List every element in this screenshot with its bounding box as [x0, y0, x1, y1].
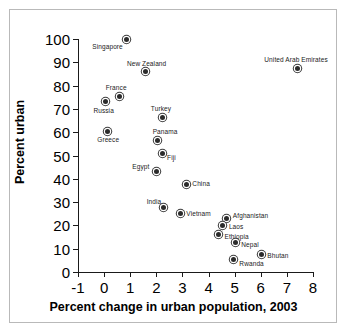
- y-axis-tick: [73, 156, 78, 157]
- data-point[interactable]: [103, 99, 108, 104]
- data-point-label: Vietnam: [186, 211, 210, 218]
- data-point-label: Fiji: [167, 155, 176, 162]
- y-axis-tick: [73, 225, 78, 226]
- x-axis-tick: [313, 272, 314, 277]
- data-point[interactable]: [160, 151, 165, 156]
- y-axis-tick: [73, 132, 78, 133]
- x-axis-tick: [209, 272, 210, 277]
- data-point-label: Singapore: [92, 44, 123, 51]
- data-point[interactable]: [105, 129, 110, 134]
- data-point[interactable]: [231, 257, 236, 262]
- x-axis-tick-label: 8: [309, 280, 317, 295]
- x-axis-title: Percent change in urban population, 2003: [0, 300, 347, 314]
- x-axis-tick: [130, 272, 131, 277]
- data-point-label: Ethiopia: [224, 234, 248, 241]
- y-axis-tick-label: 50: [53, 148, 70, 163]
- x-axis-line: [78, 272, 314, 273]
- data-point-label: Nepal: [241, 242, 258, 249]
- y-axis-tick: [73, 202, 78, 203]
- data-point[interactable]: [184, 182, 189, 187]
- y-axis-tick: [73, 179, 78, 180]
- data-point[interactable]: [220, 223, 225, 228]
- data-point-label: Egypt: [132, 164, 149, 171]
- data-point-label: Laos: [229, 224, 244, 231]
- y-axis-title: Percent urban: [13, 62, 27, 222]
- data-point[interactable]: [224, 216, 229, 221]
- data-point-label: Turkey: [151, 106, 171, 113]
- y-axis-tick-label: 70: [53, 101, 70, 116]
- data-point[interactable]: [295, 66, 300, 71]
- x-axis-tick-label: 7: [283, 280, 291, 295]
- data-point-label: France: [106, 85, 127, 92]
- y-axis-tick: [73, 39, 78, 40]
- x-axis-tick: [104, 272, 105, 277]
- x-axis-tick-label: 2: [152, 280, 160, 295]
- y-axis-tick: [73, 62, 78, 63]
- data-point-label: United Arab Emirates: [264, 57, 327, 64]
- data-point[interactable]: [143, 69, 148, 74]
- x-axis-tick-label: 4: [204, 280, 212, 295]
- x-axis-tick-label: 1: [126, 280, 134, 295]
- data-point[interactable]: [178, 211, 183, 216]
- data-point[interactable]: [155, 138, 160, 143]
- data-point-label: Russia: [93, 108, 113, 115]
- y-axis-tick-label: 10: [53, 241, 70, 256]
- y-axis-tick-label: 80: [53, 78, 70, 93]
- x-axis-tick-label: 0: [100, 280, 108, 295]
- data-point-label: Bhutan: [267, 253, 288, 260]
- x-axis-tick: [235, 272, 236, 277]
- y-axis-tick-label: 0: [62, 265, 70, 280]
- data-point-label: Greece: [97, 137, 119, 144]
- data-point[interactable]: [117, 94, 122, 99]
- y-axis-tick: [73, 86, 78, 87]
- data-point-label: New Zealand: [127, 61, 166, 68]
- data-point-label: Panama: [153, 129, 178, 136]
- data-point[interactable]: [154, 169, 159, 174]
- data-point-label: Rwanda: [239, 261, 263, 268]
- y-axis-tick-label: 60: [53, 125, 70, 140]
- y-axis-tick-label: 100: [45, 32, 70, 47]
- x-axis-tick: [287, 272, 288, 277]
- x-axis-tick-label: -1: [71, 280, 84, 295]
- y-axis-tick: [73, 249, 78, 250]
- y-axis-tick: [73, 109, 78, 110]
- data-point-label: China: [192, 181, 209, 188]
- data-point-label: Afghanistan: [233, 213, 268, 220]
- data-point[interactable]: [160, 115, 165, 120]
- y-axis-tick-label: 90: [53, 55, 70, 70]
- data-point[interactable]: [216, 232, 221, 237]
- x-axis-tick-label: 3: [178, 280, 186, 295]
- x-axis-tick: [261, 272, 262, 277]
- x-axis-tick: [182, 272, 183, 277]
- data-point[interactable]: [233, 240, 238, 245]
- y-axis-tick-label: 40: [53, 171, 70, 186]
- x-axis-tick: [156, 272, 157, 277]
- x-axis-tick-label: 6: [257, 280, 265, 295]
- data-point[interactable]: [124, 37, 129, 42]
- data-point-label: India: [147, 199, 162, 206]
- scatter-plot-area: 0102030405060708090100 -1012345678 Singa…: [78, 39, 313, 272]
- x-axis-tick-label: 5: [230, 280, 238, 295]
- data-point[interactable]: [259, 252, 264, 257]
- y-axis-tick-label: 20: [53, 218, 70, 233]
- x-axis-tick: [78, 272, 79, 277]
- y-axis-tick-label: 30: [53, 195, 70, 210]
- data-point[interactable]: [161, 205, 166, 210]
